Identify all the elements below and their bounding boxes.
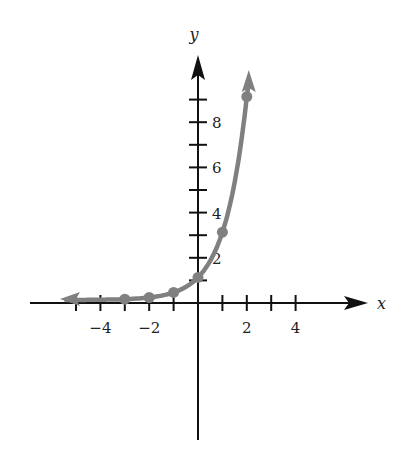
x-axis-label: x — [377, 294, 386, 313]
data-point — [168, 287, 179, 298]
y-tick-label: 8 — [212, 114, 222, 132]
x-tick-label: −4 — [89, 319, 111, 337]
data-point — [217, 227, 228, 238]
data-point — [193, 272, 204, 283]
y-tick-label: 6 — [212, 159, 222, 177]
x-tick-label: 4 — [291, 319, 301, 337]
x-tick-label: 2 — [242, 319, 252, 337]
y-axis-label: y — [188, 25, 199, 44]
data-point — [144, 292, 155, 303]
y-tick-label: 4 — [212, 205, 222, 223]
exponential-graph: −4−2242468xy — [0, 0, 405, 459]
data-point — [119, 294, 130, 305]
data-point — [241, 91, 252, 102]
x-tick-label: −2 — [138, 319, 160, 337]
